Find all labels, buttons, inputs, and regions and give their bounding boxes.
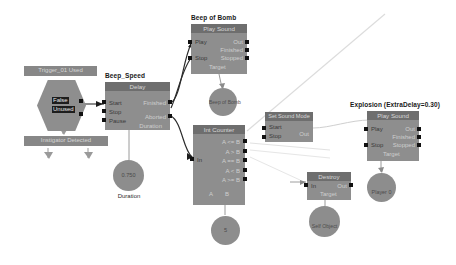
destroy-port-out[interactable] xyxy=(349,183,353,187)
explosion-title: Explosion (ExtraDelay=0.30) xyxy=(350,101,440,109)
explosion-port-stop[interactable] xyxy=(364,143,368,147)
int-counter-in-in: In xyxy=(197,157,202,164)
beep-of-bomb-port-stopped[interactable] xyxy=(245,56,249,60)
beep-speed-in-start: Start xyxy=(109,100,122,107)
trigger-bottom-bar: Instigator Detected xyxy=(24,136,108,146)
beep-speed-in-stop: Stop xyxy=(109,109,121,116)
explosion-port-out[interactable] xyxy=(417,127,421,131)
explosion-port-play[interactable] xyxy=(364,127,368,131)
beep-of-bomb-out-stopped: Stopped xyxy=(221,55,243,62)
trigger-title-label: Trigger_01 Used xyxy=(24,66,97,76)
beep-speed-port-finished[interactable] xyxy=(168,100,172,104)
explosion-target-text: Player 0 xyxy=(367,189,396,195)
trigger-port-unused[interactable] xyxy=(79,112,83,116)
beep-of-bomb-port-out[interactable] xyxy=(245,40,249,44)
trigger-out-false-label: False xyxy=(52,97,69,104)
beep-of-bomb-in-play: Play xyxy=(195,39,207,46)
beep-of-bomb-in-stop: Stop xyxy=(195,55,207,62)
explosion-in-play: Play xyxy=(371,126,383,133)
beep-speed-port-start[interactable] xyxy=(102,100,106,104)
beep-of-bomb-port-finished[interactable] xyxy=(245,48,249,52)
beep-speed-in-pause: Pause xyxy=(109,118,126,125)
beep-of-bomb-out-finished: Finished xyxy=(220,47,243,54)
explosion-port-stopped[interactable] xyxy=(417,143,421,147)
beep-speed-out-finished: Finished xyxy=(143,100,166,107)
set-sound-mode-port-stop[interactable] xyxy=(262,135,266,139)
trigger-title-bar: Trigger_01 Used xyxy=(24,66,97,76)
int-counter-port-out-0[interactable] xyxy=(243,139,247,143)
int-counter-out-1: A > B xyxy=(225,149,240,156)
set-sound-mode-in-start: Start xyxy=(269,124,282,131)
beep-sound-circle-text: Beep of Bomb xyxy=(209,99,237,105)
set-sound-mode-port-start[interactable] xyxy=(262,126,266,130)
explosion-in-stop: Stop xyxy=(371,142,383,149)
int-counter-header: Int Counter xyxy=(193,125,245,134)
explosion-port-finished[interactable] xyxy=(417,135,421,139)
beep-of-bomb-title: Beep of Bomb xyxy=(191,14,236,22)
explosion-out-stopped: Stopped xyxy=(393,142,415,149)
set-sound-mode-node[interactable]: Set Sound Mode Start Stop Out xyxy=(265,112,313,142)
int-counter-port-in[interactable] xyxy=(190,157,194,161)
node-graph-canvas[interactable]: Trigger_01 Used False Unused Instigator … xyxy=(0,0,456,265)
int-counter-node[interactable]: Int Counter In A <= B A > B A == B A < B… xyxy=(193,125,245,205)
int-counter-port-out-1[interactable] xyxy=(243,149,247,153)
explosion-target-circle[interactable]: Player 0 xyxy=(367,173,396,202)
set-sound-mode-header: Set Sound Mode xyxy=(265,112,313,121)
beep-of-bomb-port-stop[interactable] xyxy=(188,56,192,60)
int-counter-footer-a: A xyxy=(209,191,213,198)
beep-of-bomb-field-target: Target xyxy=(209,64,226,71)
int-counter-port-out-2[interactable] xyxy=(243,158,247,162)
beep-speed-port-pause[interactable] xyxy=(102,118,106,122)
beep-speed-header: Delay xyxy=(105,82,170,91)
destroy-port-in[interactable] xyxy=(304,183,308,187)
explosion-field-target: Target xyxy=(383,151,400,158)
set-sound-mode-out-out: Out xyxy=(299,131,309,138)
beep-speed-title: Beep_Speed xyxy=(105,72,145,80)
beep-speed-port-aborted[interactable] xyxy=(168,114,172,118)
destroy-target-circle[interactable]: Self Object xyxy=(309,206,340,237)
trigger-port-false[interactable] xyxy=(79,99,83,103)
destroy-in-in: In xyxy=(311,183,316,190)
beep-speed-field-duration: Duration xyxy=(139,123,162,130)
explosion-node[interactable]: Play Sound Play Stop Out Finished Stoppe… xyxy=(367,111,419,161)
int-counter-out-3: A < B xyxy=(225,168,240,175)
beep-of-bomb-port-play[interactable] xyxy=(188,40,192,44)
destroy-out-out: Out xyxy=(337,183,347,190)
destroy-node[interactable]: Destroy In Out Target xyxy=(307,172,351,200)
beep-of-bomb-node[interactable]: Play Sound Play Stop Out Finished Stoppe… xyxy=(191,24,247,74)
duration-caption: Duration xyxy=(108,193,150,200)
destroy-header: Destroy xyxy=(307,172,351,181)
int-counter-footer-b: B xyxy=(225,191,229,198)
trigger-bottom-label: Instigator Detected xyxy=(24,136,108,146)
destroy-target-text: Self Object xyxy=(309,223,340,229)
explosion-header: Play Sound xyxy=(367,111,419,120)
counter-value-text: 5 xyxy=(211,227,240,233)
explosion-out-finished: Finished xyxy=(392,134,415,141)
trigger-out-unused-label: Unused xyxy=(52,106,75,113)
beep-of-bomb-header: Play Sound xyxy=(191,24,247,33)
counter-value-circle[interactable]: 5 xyxy=(211,216,240,245)
duration-value-text: 0.750 xyxy=(113,172,144,178)
beep-speed-port-stop[interactable] xyxy=(102,109,106,113)
destroy-field-target: Target xyxy=(320,191,337,198)
set-sound-mode-in-stop: Stop xyxy=(269,133,281,140)
int-counter-out-0: A <= B xyxy=(222,139,240,146)
beep-sound-circle[interactable]: Beep of Bomb xyxy=(209,88,237,116)
int-counter-out-4: A >= B xyxy=(222,177,240,184)
explosion-out-out: Out xyxy=(405,126,415,133)
beep-speed-out-aborted: Aborted xyxy=(145,114,166,121)
int-counter-port-out-3[interactable] xyxy=(243,168,247,172)
int-counter-port-out-4[interactable] xyxy=(243,177,247,181)
int-counter-out-2: A == B xyxy=(222,158,240,165)
beep-speed-node[interactable]: Delay Start Stop Pause Finished Aborted … xyxy=(105,82,170,130)
beep-of-bomb-out-out: Out xyxy=(233,39,243,46)
duration-value-circle[interactable]: 0.750 xyxy=(113,160,144,191)
